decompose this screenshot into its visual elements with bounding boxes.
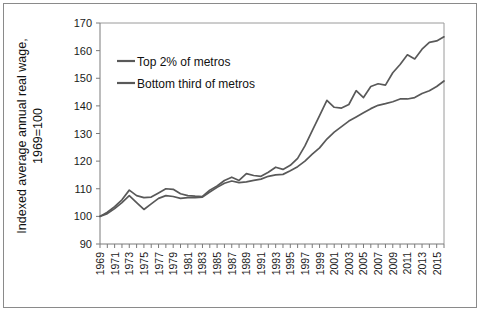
y-axis-tick-label: 170 <box>74 17 92 29</box>
y-axis-title-line2: 1969=100 <box>31 108 45 164</box>
x-axis-tick-label: 2011 <box>401 252 413 275</box>
y-axis-tick-label: 90 <box>80 238 92 250</box>
x-axis-tick-label: 1997 <box>299 252 311 276</box>
y-axis-tick-label: 130 <box>74 128 92 140</box>
x-axis-tick-label: 1973 <box>123 252 135 276</box>
x-axis-tick-label: 1977 <box>153 252 165 276</box>
x-axis-tick-label: 1979 <box>167 252 179 276</box>
x-axis-tick-label: 1989 <box>240 252 252 276</box>
y-axis-tick-label: 110 <box>74 183 92 195</box>
x-axis-tick-label: 1981 <box>182 252 194 276</box>
x-axis-tick-label: 2003 <box>343 252 355 276</box>
x-axis-tick-label: 1985 <box>211 252 223 276</box>
legend-item-1[interactable]: Top 2% of metros <box>117 55 230 69</box>
legend-label: Bottom third of metros <box>137 77 255 91</box>
x-axis-tick-label: 1995 <box>284 252 296 276</box>
x-axis-tick-label: 1975 <box>138 252 150 276</box>
x-axis-tick-label: 2005 <box>357 252 369 276</box>
y-axis-tick-label: 150 <box>74 72 92 84</box>
y-axis-tick-label: 100 <box>74 210 92 222</box>
y-axis-title: Indexed average annual real wage,1969=10… <box>15 38 45 233</box>
x-axis-tick-label: 1987 <box>226 252 238 276</box>
x-axis-tick-label: 1991 <box>255 252 267 276</box>
x-axis-tick-label: 1969 <box>94 252 106 276</box>
y-axis-tick-label: 120 <box>74 155 92 167</box>
line-chart: 9010011012013014015016017019691971197319… <box>4 4 478 309</box>
y-axis-tick-label: 140 <box>74 100 92 112</box>
x-axis-tick-label: 2009 <box>387 252 399 276</box>
x-axis-tick-label: 1983 <box>196 252 208 276</box>
x-axis-tick-label: 2007 <box>372 252 384 276</box>
x-axis-tick-label: 1971 <box>109 252 121 276</box>
x-axis-tick-label: 1993 <box>270 252 282 276</box>
x-axis-tick-label: 2013 <box>416 252 428 276</box>
legend-item-2[interactable]: Bottom third of metros <box>117 77 255 91</box>
x-axis-tick-label: 2001 <box>328 252 340 276</box>
chart-figure-frame: 9010011012013014015016017019691971197319… <box>3 3 477 308</box>
y-axis-tick-label: 160 <box>74 45 92 57</box>
legend-label: Top 2% of metros <box>137 55 230 69</box>
y-axis-title-line1: Indexed average annual real wage, <box>15 38 29 233</box>
x-axis-tick-label: 2015 <box>431 252 443 276</box>
x-axis-tick-label: 1999 <box>314 252 326 276</box>
